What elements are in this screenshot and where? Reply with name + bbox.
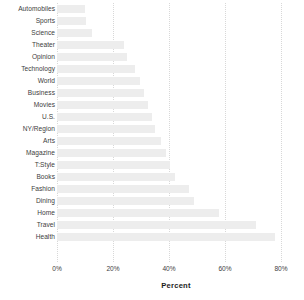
bar xyxy=(57,113,152,121)
category-label: Automobiles xyxy=(0,3,55,15)
category-label: Health xyxy=(0,231,55,243)
bar-row xyxy=(57,3,295,15)
bar-row xyxy=(57,135,295,147)
bar-row xyxy=(57,183,295,195)
category-label: NY/Region xyxy=(0,123,55,135)
category-label: World xyxy=(0,75,55,87)
category-label: Magazine xyxy=(0,147,55,159)
bar-row xyxy=(57,171,295,183)
bar xyxy=(57,209,219,217)
bar xyxy=(57,17,86,25)
category-label: U.S. xyxy=(0,111,55,123)
category-label: Home xyxy=(0,207,55,219)
bar xyxy=(57,149,166,157)
bar-row xyxy=(57,147,295,159)
category-label: Movies xyxy=(0,99,55,111)
bar xyxy=(57,41,124,49)
bar-chart: AutomobilesSportsScienceTheaterOpinionTe… xyxy=(0,0,304,300)
bar xyxy=(57,29,92,37)
bar xyxy=(57,65,135,73)
bar xyxy=(57,89,144,97)
bar-row xyxy=(57,123,295,135)
category-label: Dining xyxy=(0,195,55,207)
x-tick-label: 20% xyxy=(106,264,119,274)
bar-row xyxy=(57,159,295,171)
category-label: Opinion xyxy=(0,51,55,63)
bar-row xyxy=(57,99,295,111)
category-label: Technology xyxy=(0,63,55,75)
bar-row xyxy=(57,87,295,99)
category-label: Travel xyxy=(0,219,55,231)
x-tick-label: 40% xyxy=(162,264,175,274)
bar xyxy=(57,5,85,13)
category-label: Books xyxy=(0,171,55,183)
x-tick-label: 0% xyxy=(52,264,62,274)
bar-row xyxy=(57,219,295,231)
x-tick-label: 60% xyxy=(218,264,231,274)
bar-row xyxy=(57,111,295,123)
x-tick-label: 80% xyxy=(274,264,287,274)
category-label: T:Style xyxy=(0,159,55,171)
bar-row xyxy=(57,195,295,207)
bar-row xyxy=(57,207,295,219)
bar xyxy=(57,125,155,133)
bar xyxy=(57,233,275,241)
category-label: Science xyxy=(0,27,55,39)
category-label: Fashion xyxy=(0,183,55,195)
x-axis-tick-labels: 0%20%40%60%80% xyxy=(57,264,295,278)
bar xyxy=(57,161,170,169)
bar-row xyxy=(57,51,295,63)
bar xyxy=(57,173,175,181)
bar-row xyxy=(57,231,295,243)
bar xyxy=(57,53,127,61)
bar-row xyxy=(57,27,295,39)
category-label: Arts xyxy=(0,135,55,147)
category-axis-labels: AutomobilesSportsScienceTheaterOpinionTe… xyxy=(0,3,55,262)
bar-row xyxy=(57,75,295,87)
bar-row xyxy=(57,63,295,75)
bar xyxy=(57,221,256,229)
bar xyxy=(57,77,140,85)
bar xyxy=(57,185,189,193)
bar xyxy=(57,101,148,109)
bar-row xyxy=(57,39,295,51)
category-label: Theater xyxy=(0,39,55,51)
bar-row xyxy=(57,15,295,27)
bar xyxy=(57,137,161,145)
x-axis-title: Percent xyxy=(57,281,295,290)
category-label: Sports xyxy=(0,15,55,27)
category-label: Business xyxy=(0,87,55,99)
plot-area xyxy=(57,3,295,262)
bar xyxy=(57,197,194,205)
